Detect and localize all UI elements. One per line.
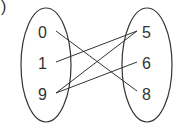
range-element: 5 bbox=[142, 24, 151, 41]
arrow-9-to-6 bbox=[56, 62, 137, 93]
mapping-diagram: ) 0 1 9 5 6 8 bbox=[0, 0, 173, 123]
range-element: 6 bbox=[142, 55, 151, 72]
domain-element: 0 bbox=[38, 24, 47, 41]
domain-element: 1 bbox=[38, 55, 47, 72]
arrow-1-to-5 bbox=[56, 31, 137, 62]
range-element: 8 bbox=[142, 86, 151, 103]
domain-element: 9 bbox=[38, 86, 47, 103]
paren-fragment: ) bbox=[1, 0, 6, 15]
